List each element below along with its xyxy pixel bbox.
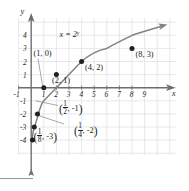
xtick-7: 7 [117,91,121,98]
page-rule-artifact [0,178,33,179]
point-4-2 [79,59,84,64]
point-1-2-neg1 [35,111,40,116]
xtick-4: 4 [79,91,83,98]
ytick-1: 1 [23,72,27,79]
ytick--2: -2 [20,111,26,118]
point-label-y-value: , -2 [83,126,94,135]
graph-figure: y x x = 2y -1 1 2 3 4 5 6 7 8 9 4 3 2 1 … [0,0,189,191]
point-label-8-3: (8, 3) [136,51,154,59]
xtick-8: 8 [130,91,134,98]
xtick-9: 9 [142,91,146,98]
xtick-5: 5 [92,91,96,98]
equation-lhs: x = 2 [60,30,77,39]
point-label-y-value: , -3 [42,132,53,141]
ytick--4: -4 [20,137,26,144]
point-label-4-2: (4, 2) [85,64,103,72]
point-label-2-1: (2, 1) [52,77,70,85]
point-label-quarter-neg2: (14, -2) [74,122,98,138]
xtick-2: 2 [54,91,58,98]
ytick-4: 4 [23,32,27,39]
point-label-eighth-neg3: (18, -3) [34,128,58,144]
point-8-3 [130,46,135,51]
paren-close: ) [79,102,83,114]
ytick--1: -1 [20,98,26,105]
xtick-3: 3 [67,91,71,98]
equation-annotation: x = 2y [60,31,80,40]
leader-1-2 [36,101,58,106]
y-axis-arrow-bottom [28,169,34,177]
point-label-y-value: , -1 [68,104,79,113]
xtick--1: -1 [14,91,20,98]
point-label-1-0: (1, 0) [34,50,52,58]
xtick-1: 1 [42,91,46,98]
paren-close: ) [53,130,57,142]
leader-1-0 [38,59,43,87]
x-axis-label: x [172,90,176,98]
ytick-2: 2 [23,59,27,66]
y-axis-label: y [21,8,25,16]
ytick-3: 3 [23,45,27,52]
ytick--3: -3 [20,124,26,131]
equation-exponent: y [77,30,79,36]
xtick-6: 6 [105,91,109,98]
paren-close: ) [94,125,98,137]
point-label-half-neg1: (12, -1) [59,100,83,116]
